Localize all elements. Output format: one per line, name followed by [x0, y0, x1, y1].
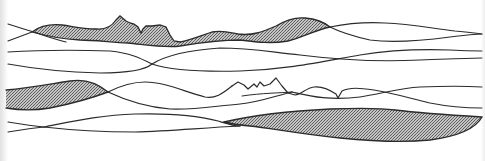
upper-right-line-b — [330, 27, 482, 41]
ridge-fill — [32, 16, 330, 47]
middle-left-band — [6, 80, 108, 109]
lower-line-a — [8, 114, 240, 127]
upper-right-line-a — [330, 23, 482, 34]
lower-right-fill — [224, 108, 482, 141]
lower-right-band — [224, 108, 482, 141]
middle-left-fill — [6, 81, 108, 110]
landscape-drawing — [0, 0, 485, 161]
row2-line-b — [8, 48, 482, 73]
lower-line-b — [8, 126, 240, 132]
upper-left-line-b — [8, 32, 32, 41]
right-edge-shadow — [481, 0, 485, 161]
middle-line-lower — [108, 92, 292, 109]
left-edge-shadow — [0, 0, 8, 161]
middle-right-line — [292, 86, 482, 98]
middle-line-upper — [108, 82, 232, 97]
upper-ridge-band — [32, 16, 330, 47]
line-art-illustration — [0, 0, 485, 161]
